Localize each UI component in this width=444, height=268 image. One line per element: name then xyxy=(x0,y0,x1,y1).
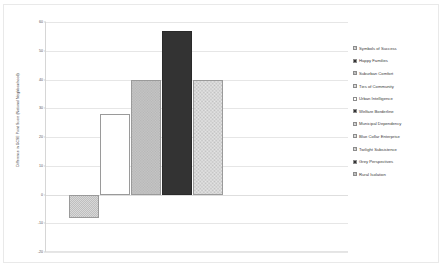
y-tick-label: 40 xyxy=(39,78,43,82)
legend-item[interactable]: Grey Perspectives xyxy=(353,155,439,168)
legend-item[interactable]: Symbols of Success xyxy=(353,42,439,55)
y-tick-label: -20 xyxy=(38,250,43,254)
legend-swatch-icon xyxy=(353,160,357,164)
legend-item[interactable]: Happy Families xyxy=(353,55,439,68)
legend-item-label: Grey Perspectives xyxy=(359,159,393,164)
chart-legend: Symbols of SuccessHappy FamiliesSuburban… xyxy=(353,42,439,181)
legend-swatch-icon xyxy=(353,97,357,101)
legend-swatch-icon xyxy=(353,46,357,50)
y-tick-label: 50 xyxy=(39,49,43,53)
chart-root: Difference in GCSE Point Score (National… xyxy=(0,0,444,268)
y-tick-label: 30 xyxy=(39,106,43,110)
legend-item-label: Rural Isolation xyxy=(359,172,386,177)
bar xyxy=(162,31,192,195)
y-axis-title: Difference in GCSE Point Score (National… xyxy=(16,40,20,200)
bar xyxy=(100,114,130,195)
y-tick-label: -10 xyxy=(38,221,43,225)
legend-item-label: Happy Families xyxy=(359,58,388,63)
bar xyxy=(193,80,223,195)
legend-item[interactable]: Twilight Subsistence xyxy=(353,143,439,156)
legend-item[interactable]: Welfare Borderline xyxy=(353,105,439,118)
bar xyxy=(69,195,99,218)
legend-swatch-icon xyxy=(353,122,357,126)
legend-item-label: Symbols of Success xyxy=(359,46,397,51)
legend-swatch-icon xyxy=(353,147,357,151)
y-tick-label: 60 xyxy=(39,20,43,24)
y-tick-label: 10 xyxy=(39,164,43,168)
legend-swatch-icon xyxy=(353,59,357,63)
y-tick-label: 20 xyxy=(39,135,43,139)
legend-item-label: Blue Collar Enterprise xyxy=(359,134,400,139)
legend-swatch-icon xyxy=(353,71,357,75)
legend-item-label: Municipal Dependency xyxy=(359,121,401,126)
legend-item-label: Urban Intelligence xyxy=(359,96,393,101)
plot-area: 6050403020100-10-20 xyxy=(45,22,348,252)
gridline xyxy=(46,252,348,253)
legend-item[interactable]: Ties of Community xyxy=(353,80,439,93)
legend-item-label: Suburban Comfort xyxy=(359,71,393,76)
legend-item[interactable]: Suburban Comfort xyxy=(353,67,439,80)
legend-swatch-icon xyxy=(353,134,357,138)
y-tick-label: 0 xyxy=(41,193,43,197)
legend-item[interactable]: Municipal Dependency xyxy=(353,118,439,131)
legend-item-label: Twilight Subsistence xyxy=(359,147,397,152)
legend-item-label: Welfare Borderline xyxy=(359,109,394,114)
legend-item-label: Ties of Community xyxy=(359,84,394,89)
legend-swatch-icon xyxy=(353,84,357,88)
y-tick-mark xyxy=(44,252,46,253)
legend-item[interactable]: Blue Collar Enterprise xyxy=(353,130,439,143)
bar xyxy=(131,80,161,195)
legend-item[interactable]: Urban Intelligence xyxy=(353,92,439,105)
legend-item[interactable]: Rural Isolation xyxy=(353,168,439,181)
legend-swatch-icon xyxy=(353,172,357,176)
legend-swatch-icon xyxy=(353,109,357,113)
bars-layer xyxy=(46,22,348,251)
